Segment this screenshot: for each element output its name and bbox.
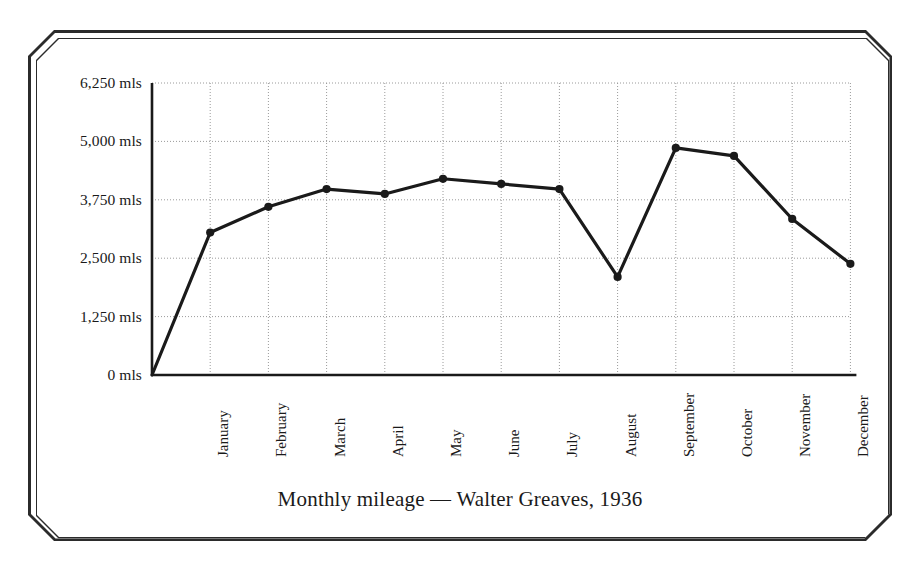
x-axis-tick-label: September	[682, 393, 697, 457]
y-axis-tick-label: 2,500 mls	[0, 250, 142, 266]
data-point-marker	[672, 144, 680, 152]
axis-layer	[152, 83, 856, 375]
x-axis-tick-label: October	[740, 409, 755, 457]
x-axis-tick-label: August	[624, 414, 639, 457]
data-point-marker	[555, 185, 563, 193]
data-point-marker	[497, 180, 505, 188]
data-point-marker	[264, 203, 272, 211]
data-point-marker	[206, 228, 214, 236]
x-axis-tick-label: February	[274, 403, 289, 457]
line-chart: 0 mls1,250 mls2,500 mls3,750 mls5,000 ml…	[0, 0, 920, 571]
x-axis-tick-label: March	[333, 418, 348, 457]
data-point-marker	[323, 185, 331, 193]
data-markers	[206, 144, 854, 281]
x-axis-tick-label: November	[798, 394, 813, 457]
x-axis-tick-label: July	[565, 432, 580, 457]
y-axis-tick-label: 1,250 mls	[0, 309, 142, 325]
x-axis-tick-label: May	[449, 430, 464, 458]
data-point-marker	[846, 260, 854, 268]
y-axis-tick-label: 3,750 mls	[0, 192, 142, 208]
grid-layer	[152, 83, 850, 375]
data-point-marker	[614, 273, 622, 281]
x-axis-tick-label: April	[391, 425, 406, 457]
data-point-marker	[381, 190, 389, 198]
x-axis-tick-label: December	[856, 395, 871, 457]
y-axis-tick-label: 5,000 mls	[0, 133, 142, 149]
data-point-marker	[788, 215, 796, 223]
chart-title: Monthly mileage — Walter Greaves, 1936	[0, 487, 920, 512]
y-axis-tick-label: 6,250 mls	[0, 75, 142, 91]
data-point-marker	[730, 152, 738, 160]
chart-page: 0 mls1,250 mls2,500 mls3,750 mls5,000 ml…	[0, 0, 920, 571]
data-point-marker	[439, 175, 447, 183]
x-axis-tick-label: June	[507, 430, 522, 458]
x-axis-tick-label: January	[216, 410, 231, 457]
y-axis-tick-label: 0 mls	[0, 367, 142, 383]
